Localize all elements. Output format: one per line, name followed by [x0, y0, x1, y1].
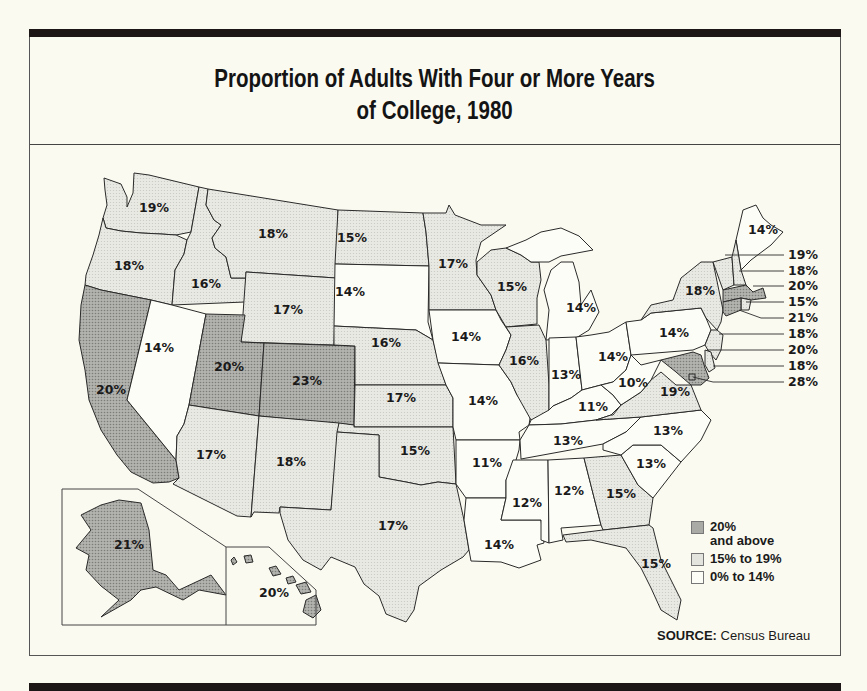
state-label-west-virginia: 10%: [618, 375, 648, 390]
state-label-alabama: 12%: [554, 483, 584, 498]
state-label-georgia: 15%: [606, 486, 636, 501]
state-maine: [736, 205, 783, 270]
state-label-indiana: 13%: [551, 367, 581, 382]
state-label-michigan: 14%: [566, 300, 596, 315]
state-label-utah: 20%: [214, 359, 244, 374]
state-label-oklahoma: 15%: [400, 443, 430, 458]
state-label-new-hampshire: 18%: [788, 263, 818, 278]
state-florida: [563, 525, 681, 620]
state-label-north-dakota: 15%: [337, 230, 367, 245]
legend-label-high-2: and above: [710, 534, 774, 548]
legend-label-mid: 15% to 19%: [710, 552, 782, 566]
state-label-pennsylvania: 14%: [659, 325, 689, 340]
state-label-illinois: 16%: [509, 353, 539, 368]
state-label-vermont: 19%: [788, 247, 818, 262]
state-label-new-york: 18%: [685, 283, 715, 298]
state-label-north-carolina: 13%: [653, 423, 683, 438]
legend-swatch-high: [691, 521, 704, 534]
legend-item-mid: 15% to 19%: [691, 552, 782, 566]
state-label-new-jersey: 18%: [788, 326, 818, 341]
figure-frame: Proportion of Adults With Four or More Y…: [29, 37, 841, 656]
state-label-south-carolina: 13%: [636, 456, 666, 471]
legend: 20% and above 15% to 19% 0% to 14%: [691, 520, 782, 588]
state-label-california: 20%: [96, 382, 126, 397]
legend-label-low: 0% to 14%: [710, 570, 774, 584]
legend-item-high: 20% and above: [691, 520, 782, 548]
state-label-nebraska: 16%: [371, 335, 401, 350]
legend-swatch-mid: [691, 553, 704, 566]
state-label-connecticut: 21%: [788, 310, 818, 325]
legend-label-high-1: 20%: [710, 520, 774, 534]
legend-item-low: 0% to 14%: [691, 570, 782, 584]
state-label-kansas: 17%: [386, 390, 416, 405]
state-label-virginia: 19%: [660, 384, 690, 399]
state-label-south-dakota: 14%: [335, 284, 365, 299]
state-label-montana: 18%: [258, 226, 288, 241]
state-label-new-mexico: 18%: [276, 454, 306, 469]
state-label-mississippi: 12%: [512, 495, 542, 510]
state-label-arizona: 17%: [196, 447, 226, 462]
state-label-arkansas: 11%: [472, 455, 502, 470]
state-label-hawaii: 20%: [259, 585, 289, 600]
source-text: Census Bureau: [717, 628, 810, 643]
state-label-delaware: 18%: [788, 358, 818, 373]
state-label-tennessee: 13%: [553, 433, 583, 448]
bottom-rule: [29, 683, 841, 691]
state-label-colorado: 23%: [292, 373, 322, 388]
state-label-texas: 17%: [378, 518, 408, 533]
source-note: SOURCE: Census Bureau: [657, 628, 810, 643]
state-label-oregon: 18%: [114, 258, 144, 273]
state-label-wyoming: 17%: [273, 302, 303, 317]
state-label-kentucky: 11%: [578, 399, 608, 414]
map-area: 19%18%20%16%14%18%17%20%23%17%18%15%14%1…: [30, 145, 840, 655]
state-label-massachusetts: 20%: [788, 278, 818, 293]
state-label-minnesota: 17%: [438, 256, 468, 271]
state-label-louisiana: 14%: [484, 537, 514, 552]
state-label-ohio: 14%: [598, 349, 628, 364]
state-label-idaho: 16%: [191, 276, 221, 291]
state-rhode-island: [741, 298, 751, 310]
state-label-missouri: 14%: [468, 393, 498, 408]
state-label-iowa: 14%: [451, 329, 481, 344]
state-label-district-of-columbia: 28%: [788, 374, 818, 389]
source-label: SOURCE:: [657, 628, 717, 643]
state-label-alaska: 21%: [114, 537, 144, 552]
state-label-nevada: 14%: [144, 340, 174, 355]
state-label-maryland: 20%: [788, 342, 818, 357]
state-label-rhode-island: 15%: [788, 294, 818, 309]
state-alaska: [76, 500, 226, 617]
legend-swatch-low: [691, 571, 704, 584]
state-label-florida: 15%: [641, 556, 671, 571]
state-label-wisconsin: 15%: [497, 279, 527, 294]
state-label-maine: 14%: [748, 222, 778, 237]
state-label-washington: 19%: [139, 200, 169, 215]
